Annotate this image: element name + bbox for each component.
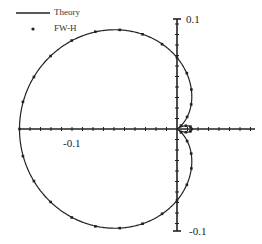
fwh-point xyxy=(180,131,183,134)
y-tick-top-label: 0.1 xyxy=(186,14,200,25)
axis-ticks xyxy=(30,24,251,224)
fwh-point xyxy=(18,128,21,131)
fwh-point xyxy=(118,227,121,230)
fwh-point xyxy=(94,225,97,228)
legend-fwh-marker xyxy=(31,27,34,30)
fwh-point xyxy=(186,116,189,119)
fwh-point xyxy=(190,103,193,106)
fwh-point xyxy=(190,167,193,170)
fwh-point xyxy=(22,101,25,104)
x-tick-left-label: -0.1 xyxy=(63,138,80,149)
fwh-point xyxy=(70,216,73,219)
fwh-point xyxy=(94,30,97,33)
fwh-point xyxy=(118,29,121,32)
fwh-point xyxy=(161,43,164,46)
fwh-point xyxy=(186,72,189,75)
fwh-point xyxy=(141,222,144,225)
fwh-point xyxy=(176,199,179,202)
fwh-point xyxy=(141,33,144,36)
legend-fwh-label: FW-H xyxy=(54,24,77,33)
fwh-point xyxy=(190,88,193,91)
fwh-point xyxy=(185,131,188,134)
fwh-point xyxy=(70,39,73,42)
fwh-point xyxy=(186,140,189,143)
legend-theory-label: Theory xyxy=(54,8,80,17)
fwh-point xyxy=(189,125,192,128)
fwh-point xyxy=(176,56,179,59)
fwh-point xyxy=(33,180,36,183)
fwh-point xyxy=(33,76,36,79)
y-tick-bottom-label: -0.1 xyxy=(189,226,206,237)
fwh-point xyxy=(161,212,164,215)
fwh-point xyxy=(190,128,193,131)
fwh-point xyxy=(180,124,183,127)
fwh-point xyxy=(49,201,52,204)
fwh-point xyxy=(189,130,192,133)
fwh-point xyxy=(49,55,52,58)
fwh-point xyxy=(185,124,188,127)
fwh-point xyxy=(22,155,25,158)
polar-plot xyxy=(0,0,262,244)
fwh-point xyxy=(186,184,189,187)
fwh-point xyxy=(190,152,193,155)
